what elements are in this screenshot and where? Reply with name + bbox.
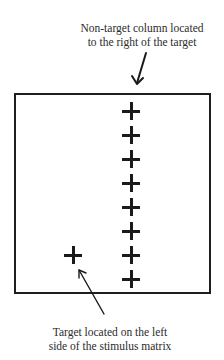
non-target-cross	[122, 102, 140, 120]
target-annotation-line2: side of the stimulus matrix	[20, 339, 200, 353]
non-target-cross	[122, 246, 140, 264]
arrow-to-non-target-column-icon	[132, 53, 146, 84]
target-annotation-line1: Target located on the left	[20, 325, 200, 339]
target-annotation: Target located on the left side of the s…	[20, 325, 200, 353]
stimulus-matrix	[14, 93, 211, 294]
non-target-cross	[122, 270, 140, 288]
non-target-cross	[122, 150, 140, 168]
non-target-annotation: Non-target column located to the right o…	[60, 21, 224, 49]
non-target-cross	[122, 222, 140, 240]
non-target-cross	[122, 198, 140, 216]
non-target-annotation-line1: Non-target column located	[60, 21, 224, 35]
non-target-cross	[122, 126, 140, 144]
non-target-annotation-line2: to the right of the target	[60, 35, 224, 49]
non-target-cross	[122, 174, 140, 192]
target-cross	[64, 246, 82, 264]
